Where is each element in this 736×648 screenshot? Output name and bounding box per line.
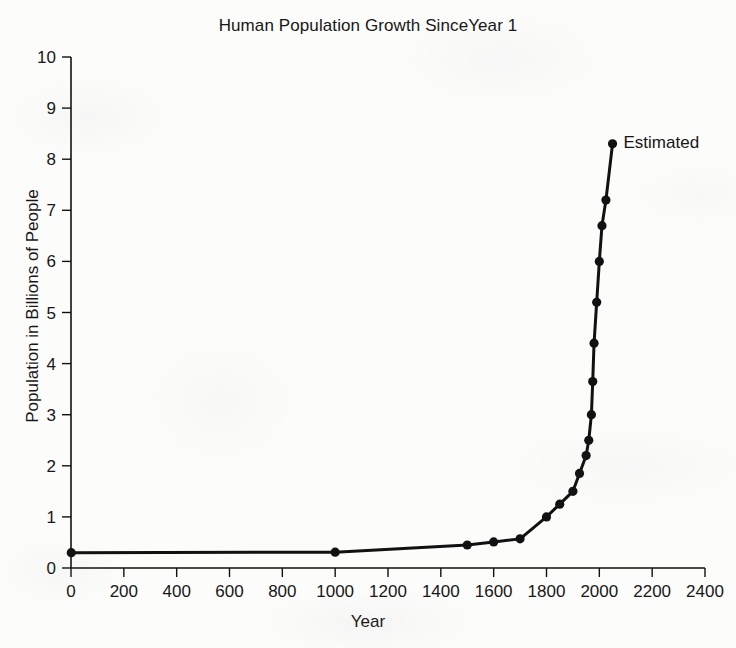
y-tick-label: 4 — [47, 355, 56, 374]
data-point-marker — [608, 139, 617, 148]
data-point-marker — [555, 500, 564, 509]
data-point-marker — [331, 548, 340, 557]
x-axis-ticks: 0200400600800100012001400160018002000220… — [66, 568, 724, 601]
data-point-marker — [515, 534, 524, 543]
data-point-marker — [67, 548, 76, 557]
x-tick-label: 0 — [66, 582, 75, 601]
data-point-marker — [575, 469, 584, 478]
y-tick-label: 6 — [47, 252, 56, 271]
y-tick-label: 9 — [47, 99, 56, 118]
estimated-annotation-label: Estimated — [624, 133, 700, 153]
y-tick-label: 8 — [47, 150, 56, 169]
data-point-marker — [601, 195, 610, 204]
y-tick-label: 10 — [37, 48, 56, 67]
data-point-marker — [542, 512, 551, 521]
data-point-marker — [568, 487, 577, 496]
data-point-marker — [582, 451, 591, 460]
y-tick-label: 2 — [47, 457, 56, 476]
axes — [71, 57, 705, 568]
x-tick-label: 1000 — [316, 582, 354, 601]
y-tick-label: 3 — [47, 406, 56, 425]
data-series — [67, 139, 617, 557]
x-tick-label: 1400 — [422, 582, 460, 601]
plot-area: 012345678910 020040060080010001200140016… — [0, 0, 736, 648]
data-point-marker — [592, 298, 601, 307]
population-growth-chart: Human Population Growth SinceYear 1 Popu… — [0, 0, 736, 648]
x-tick-label: 800 — [268, 582, 296, 601]
data-point-marker — [489, 537, 498, 546]
y-axis-ticks: 012345678910 — [37, 48, 71, 578]
y-tick-label: 0 — [47, 559, 56, 578]
data-point-marker — [589, 339, 598, 348]
y-tick-label: 1 — [47, 508, 56, 527]
data-point-marker — [588, 377, 597, 386]
x-tick-label: 2400 — [686, 582, 724, 601]
x-tick-label: 2200 — [633, 582, 671, 601]
x-tick-label: 1600 — [475, 582, 513, 601]
x-tick-label: 1200 — [369, 582, 407, 601]
y-tick-label: 5 — [47, 304, 56, 323]
x-tick-label: 2000 — [580, 582, 618, 601]
x-tick-label: 1800 — [528, 582, 566, 601]
y-tick-label: 7 — [47, 201, 56, 220]
series-line — [71, 144, 612, 553]
data-point-marker — [587, 410, 596, 419]
data-point-marker — [595, 257, 604, 266]
data-point-marker — [597, 221, 606, 230]
x-tick-label: 200 — [110, 582, 138, 601]
data-point-marker — [584, 436, 593, 445]
x-tick-label: 600 — [215, 582, 243, 601]
x-tick-label: 400 — [162, 582, 190, 601]
data-point-marker — [463, 540, 472, 549]
